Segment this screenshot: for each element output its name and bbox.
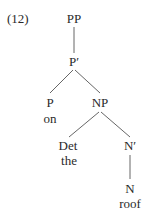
node-det: Det: [59, 139, 78, 152]
node-np: NP: [92, 96, 109, 109]
node-n-bar: N′: [124, 139, 136, 152]
node-p-bar: P′: [69, 55, 79, 68]
node-pp: PP: [67, 12, 81, 25]
word-roof: roof: [119, 197, 141, 210]
word-the: the: [61, 154, 77, 167]
edge-pbar-p: [50, 70, 73, 93]
edge-np-nbar: [101, 112, 130, 137]
node-p: P: [46, 96, 53, 109]
edge-pbar-np: [75, 70, 100, 93]
word-on: on: [44, 112, 57, 125]
edge-np-det: [69, 112, 99, 137]
node-n: N: [125, 182, 134, 195]
